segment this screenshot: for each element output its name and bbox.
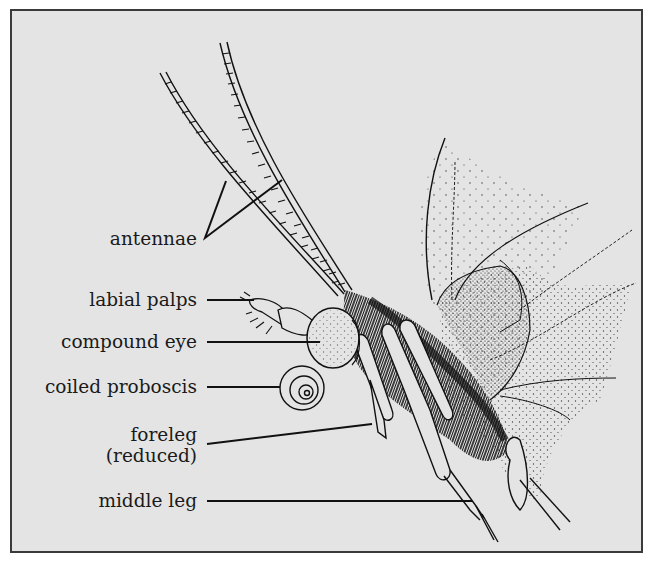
wing-group — [420, 138, 636, 500]
foreleg-leader — [207, 424, 372, 444]
label-compound-eye: compound eye — [61, 331, 197, 353]
antennae-drawing — [160, 42, 352, 296]
label-antennae: antennae — [110, 228, 197, 250]
label-foreleg-line1: foreleg — [106, 424, 197, 445]
label-labial-palps: labial palps — [89, 289, 197, 311]
labial-palps-drawing — [240, 292, 318, 335]
label-coiled-proboscis: coiled proboscis — [45, 376, 197, 398]
coiled-proboscis-drawing — [280, 366, 324, 410]
label-foreleg-line2: (reduced) — [106, 445, 197, 466]
label-middle-leg: middle leg — [98, 490, 197, 512]
antennae-leader — [205, 180, 282, 238]
compound-eye-drawing — [307, 308, 360, 368]
label-foreleg: foreleg (reduced) — [106, 424, 197, 466]
